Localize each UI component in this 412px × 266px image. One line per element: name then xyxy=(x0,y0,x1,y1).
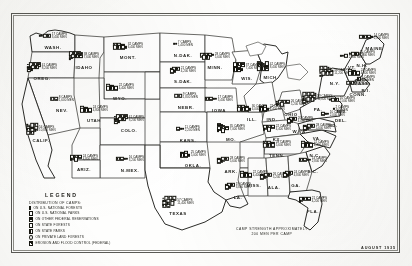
camp-symbol-icon xyxy=(237,107,241,111)
camp-symbol-icon xyxy=(126,158,128,160)
camp-men-label: 1,600 MEN xyxy=(59,99,74,102)
camp-symbol-icon xyxy=(326,71,330,75)
camp-symbol-icon xyxy=(225,185,229,189)
camp-symbol-stack xyxy=(349,53,359,56)
camp-symbol-icon xyxy=(267,108,269,110)
camp-symbol-icon xyxy=(50,97,54,101)
camp-symbol-icon xyxy=(231,183,235,187)
camp-symbol-row xyxy=(50,98,58,101)
camp-symbol-cluster: 24 CAMPS4,800 MEN xyxy=(348,69,376,75)
legend-item: ON STATE PARKS xyxy=(29,229,157,234)
camp-count-info: 22 CAMPS4,400 MEN xyxy=(119,84,134,90)
camp-symbol-icon xyxy=(54,97,58,101)
camp-men-label: 3,400 MEN xyxy=(52,36,67,39)
state-label-mo: MO. xyxy=(226,137,236,142)
camp-symbol-row xyxy=(263,128,271,131)
camp-symbol-row xyxy=(299,159,311,162)
camp-symbol-stack xyxy=(106,84,118,89)
camp-symbol-icon xyxy=(344,54,348,58)
camp-symbol-stack xyxy=(70,155,82,160)
state-label-ill: ILL. xyxy=(247,117,257,122)
camp-symbol-row xyxy=(116,158,128,161)
camp-men-label: 11,400 MEN xyxy=(177,202,193,205)
camp-symbol-icon xyxy=(162,204,166,208)
camp-count-info: 14 CAMPS2,800 MEN xyxy=(312,157,327,163)
camp-symbol-row xyxy=(349,53,359,56)
camp-symbol-icon xyxy=(321,112,325,116)
camp-symbol-icon xyxy=(180,153,184,157)
state-label-calif: CALIF. xyxy=(33,138,50,143)
camp-symbol-cluster: 7 CAMPS1,400 MEN xyxy=(173,41,193,47)
camp-symbol-icon xyxy=(221,128,225,132)
state-label-va: VA. xyxy=(313,136,322,141)
camp-symbol-icon xyxy=(30,131,34,135)
camp-symbol-icon xyxy=(291,120,293,122)
camp-men-label: 2,800 MEN xyxy=(312,160,327,163)
camp-symbol-cluster: 14 CAMPS2,800 MEN xyxy=(359,34,389,40)
camp-count-info: 17 CAMPS3,400 MEN xyxy=(218,96,233,102)
ccc-camp-map-page: 17 CAMPS3,400 MENWASH.41 CAMPS8,200 MENO… xyxy=(0,0,412,266)
camp-symbol-row xyxy=(80,109,92,112)
camp-count-info: 7 CAMPS1,400 MEN xyxy=(178,41,193,47)
camp-count-info: 42 CAMPS8,400 MEN xyxy=(270,63,285,69)
camp-symbol-stack xyxy=(50,98,58,101)
legend-item: ON OTHER FEDERAL RESERVATIONS xyxy=(29,217,157,222)
camp-symbol-stack xyxy=(200,53,214,58)
camp-strength-note-line2: 200 MEN PER CAMP xyxy=(236,232,308,237)
camp-symbol-stack xyxy=(276,100,290,105)
camp-symbol-icon xyxy=(184,153,188,157)
camp-symbol-icon xyxy=(117,45,121,49)
camp-symbol-icon xyxy=(174,70,176,72)
camp-symbol-icon xyxy=(171,201,175,205)
legend-title: LEGEND xyxy=(45,192,157,198)
camp-symbol-icon xyxy=(352,71,356,75)
state-label-ariz: ARIZ. xyxy=(77,167,91,172)
state-label-maine: MAINE xyxy=(366,46,383,51)
camp-symbol-stack xyxy=(217,124,229,132)
legend-item-label: ON OTHER FEDERAL RESERVATIONS xyxy=(35,217,98,221)
state-label-miss: MISS. xyxy=(247,183,262,188)
camp-symbol-row xyxy=(240,174,252,177)
state-label-mass: MASS. xyxy=(354,81,371,86)
camp-symbol-icon xyxy=(311,124,315,128)
camp-symbol-row xyxy=(106,87,118,90)
camp-symbol-cluster: 42 CAMPS8,400 MEN xyxy=(257,62,285,70)
camp-symbol-stack xyxy=(263,141,275,146)
state-label-ind: IND. xyxy=(267,117,278,122)
camp-symbol-row xyxy=(340,55,348,58)
camp-symbol-icon xyxy=(309,159,311,161)
camp-symbol-icon xyxy=(174,94,178,98)
camp-symbol-stack xyxy=(346,82,354,85)
camp-symbol-icon xyxy=(188,154,190,156)
camp-symbol-cluster: 22 CAMPS4,400 MEN xyxy=(106,84,134,90)
camp-symbol-icon xyxy=(74,157,78,161)
camp-symbol-icon xyxy=(71,58,73,60)
camp-symbol-cluster: 20 CAMPS4,000 MEN xyxy=(287,117,313,123)
camp-symbol-icon xyxy=(206,55,210,59)
camp-symbol-icon xyxy=(330,71,334,75)
camp-strength-note: CAMP STRENGTH APPROXIMATELY 200 MEN PER … xyxy=(236,227,308,237)
camp-symbol-icon xyxy=(26,131,30,135)
state-label-mont: MONT. xyxy=(120,55,136,60)
camp-symbol-cluster: 21 CAMPS4,200 MEN xyxy=(170,67,196,73)
camp-symbol-stack xyxy=(359,36,373,39)
camp-symbol-icon xyxy=(79,54,83,58)
camp-symbol-row xyxy=(69,57,73,60)
camp-symbol-icon xyxy=(170,69,174,73)
camp-symbol-stack xyxy=(257,62,269,70)
camp-symbol-icon xyxy=(335,98,339,102)
camp-symbol-icon xyxy=(122,117,126,121)
camp-symbol-cluster: 24 CAMPS4,800 MEN xyxy=(80,106,108,112)
camp-symbol-icon xyxy=(84,108,88,112)
state-label-tenn: TENN. xyxy=(269,153,285,158)
camp-symbol-row xyxy=(302,101,308,104)
state-label-wyo: WYO. xyxy=(113,96,127,101)
split-bar-icon xyxy=(29,229,33,234)
legend-item-label: ON PRIVATE LAND FORESTS xyxy=(35,235,84,239)
camp-men-label: 8,200 MEN xyxy=(129,119,144,122)
camp-symbol-row xyxy=(176,128,184,131)
camp-count-info: 24 CAMPS4,800 MEN xyxy=(93,106,108,112)
camp-symbol-icon xyxy=(346,81,350,85)
camp-symbol-row xyxy=(113,46,127,49)
camp-symbol-cluster: 21 CAMPS4,200 MEN xyxy=(299,197,327,203)
